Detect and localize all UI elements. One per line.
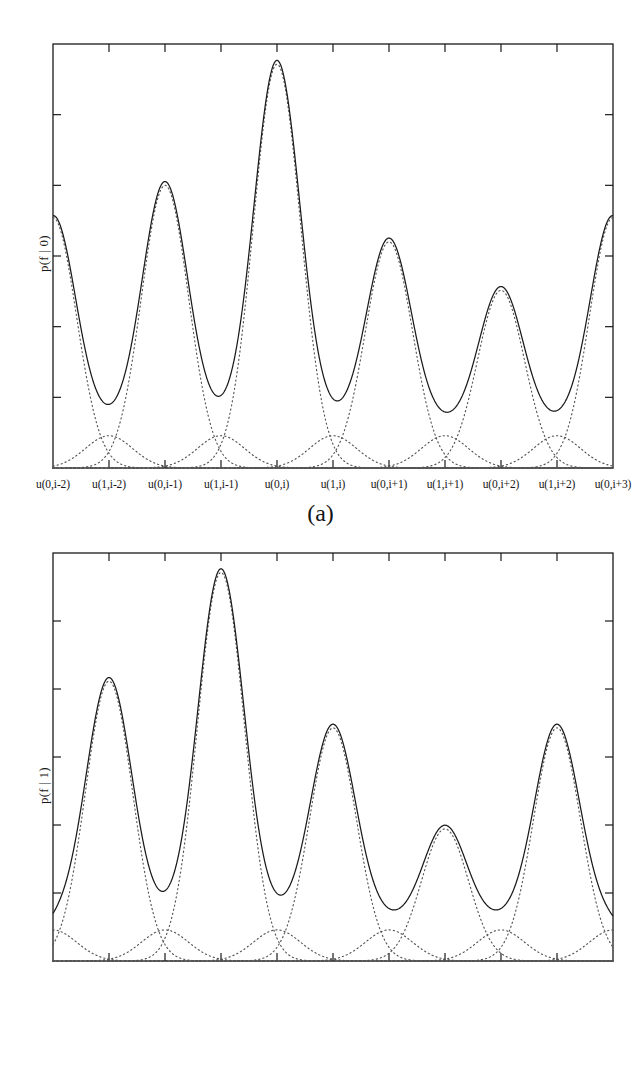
x-tick-label: u(1,i+2): [539, 478, 576, 490]
x-tick-label: u(0,i+2): [483, 478, 520, 490]
x-tick-label: u(0,i): [265, 478, 290, 490]
x-tick-labels-a: u(0,i-2)u(1,i-2)u(0,i-1)u(1,i-1)u(0,i)u(…: [0, 478, 641, 498]
x-tick-label: u(1,i+1): [427, 478, 464, 490]
x-tick-label: u(1,i-2): [92, 478, 126, 490]
x-tick-label: u(0,i-1): [148, 478, 182, 490]
plot-b: [0, 514, 641, 1078]
x-tick-label: u(0,i-2): [36, 478, 70, 490]
figure-root: p(f | 0) u(0,i-2)u(1,i-2)u(0,i-1)u(1,i-1…: [0, 0, 641, 1078]
y-axis-label-b: p(f | 1): [36, 767, 52, 804]
plot-a: [0, 0, 641, 540]
y-axis-label-a: p(f | 0): [36, 235, 52, 272]
panel-a: p(f | 0) u(0,i-2)u(1,i-2)u(0,i-1)u(1,i-1…: [0, 0, 641, 540]
x-tick-label: u(1,i-1): [204, 478, 238, 490]
x-tick-label: u(1,i): [321, 478, 346, 490]
x-tick-label: u(0,i+1): [371, 478, 408, 490]
x-tick-label: u(0,i+3): [595, 478, 632, 490]
panel-b: p(f | 1) u(0,i-2)u(1,i-2)u(0,i-1)u(1,i-1…: [0, 514, 641, 1078]
